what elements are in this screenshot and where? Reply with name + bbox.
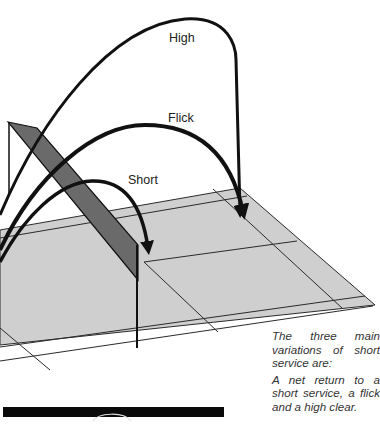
photo-arc-icon bbox=[3, 411, 224, 421]
caption-body: A net return to a short service, a flick… bbox=[272, 373, 380, 414]
caption: The three main variations of short servi… bbox=[272, 329, 380, 413]
court-surface bbox=[0, 188, 375, 345]
label-high: High bbox=[169, 31, 195, 45]
label-short: Short bbox=[128, 173, 158, 187]
trajectory-high bbox=[0, 19, 240, 215]
label-flick: Flick bbox=[168, 111, 194, 125]
caption-intro: The three main variations of short servi… bbox=[272, 329, 380, 370]
photo-edge bbox=[3, 407, 224, 417]
